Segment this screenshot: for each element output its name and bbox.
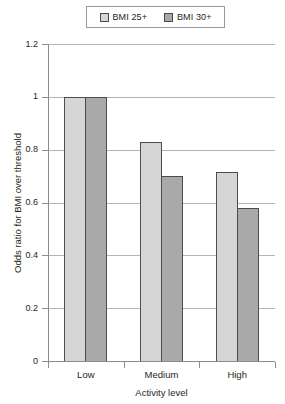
legend-item-bmi-30: BMI 30+ (164, 13, 211, 22)
y-axis-tick (42, 44, 48, 45)
x-axis-category-label: Medium (127, 370, 197, 380)
x-axis-line (48, 361, 275, 362)
y-axis-tick (42, 97, 48, 98)
bar-high-bmi-25 (216, 172, 238, 361)
x-axis-tick (124, 362, 125, 368)
y-axis-tick-label: 1 (4, 92, 38, 101)
bar-low-bmi-25 (64, 97, 86, 361)
y-axis-tick-label: 0.8 (4, 145, 38, 154)
y-axis-tick-label: 0.6 (4, 198, 38, 207)
y-axis-line (48, 44, 49, 362)
x-axis-tick (199, 362, 200, 368)
y-axis-tick-label: 0.4 (4, 251, 38, 260)
bar-medium-bmi-30 (161, 176, 183, 361)
bar-low-bmi-30 (85, 97, 107, 361)
x-axis-category-label: Low (51, 370, 121, 380)
y-axis-tick (42, 203, 48, 204)
bar-medium-bmi-25 (140, 142, 162, 361)
y-axis-tick (42, 255, 48, 256)
legend-swatch-bmi-25 (100, 13, 109, 22)
legend-label-bmi-25: BMI 25+ (113, 13, 147, 22)
chart-legend: BMI 25+ BMI 30+ (86, 6, 225, 28)
y-axis-tick-label: 0 (4, 357, 38, 366)
y-axis-tick (42, 150, 48, 151)
legend-item-bmi-25: BMI 25+ (100, 13, 147, 22)
x-axis-tick (48, 362, 49, 368)
y-axis-tick (42, 308, 48, 309)
bar-group-low (64, 44, 107, 361)
bar-high-bmi-30 (237, 208, 259, 361)
legend-swatch-bmi-30 (164, 13, 173, 22)
bar-group-medium (140, 44, 183, 361)
y-axis-tick-label: 0.2 (4, 304, 38, 313)
legend-label-bmi-30: BMI 30+ (177, 13, 211, 22)
y-axis-tick-label: 1.2 (4, 40, 38, 49)
x-axis-title: Activity level (48, 388, 275, 398)
x-axis-category-label: High (202, 370, 272, 380)
x-axis-tick (275, 362, 276, 368)
bar-group-high (216, 44, 259, 361)
